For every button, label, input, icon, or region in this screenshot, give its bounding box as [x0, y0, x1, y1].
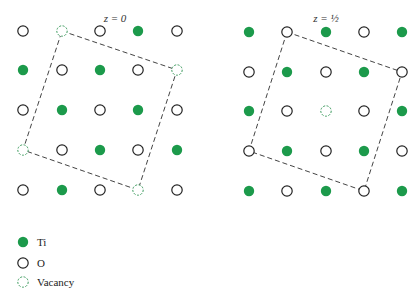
legend-ti-label: Ti [37, 236, 46, 248]
legend: Ti O Vacancy [18, 236, 75, 288]
ti-atom-icon [359, 67, 369, 77]
ti-atom-icon [282, 146, 292, 156]
ti-atom-icon [359, 146, 369, 156]
vacancy-icon [172, 65, 182, 75]
ti-atom-icon [397, 106, 407, 116]
o-atom-icon [397, 146, 407, 156]
legend-o-icon [18, 258, 28, 268]
o-atom-icon [18, 185, 28, 195]
vacancy-icon [321, 106, 331, 116]
ti-atom-icon [321, 186, 331, 196]
panel-z0-title: z = 0 [103, 12, 127, 24]
o-atom-icon [172, 105, 182, 115]
legend-ti-icon [18, 237, 28, 247]
o-atom-icon [172, 26, 182, 36]
crystal-lattice-diagram: z = 0 z = ½ Ti O Vacancy [0, 0, 420, 300]
o-atom-icon [172, 185, 182, 195]
o-atom-icon [133, 145, 143, 155]
o-atom-icon [95, 105, 105, 115]
o-atom-icon [133, 65, 143, 75]
ti-atom-icon [321, 27, 331, 37]
ti-atom-icon [133, 26, 143, 36]
ti-atom-icon [95, 145, 105, 155]
o-atom-icon [57, 65, 67, 75]
ti-atom-icon [133, 105, 143, 115]
o-atom-icon [282, 27, 292, 37]
legend-vacancy-label: Vacancy [37, 276, 75, 288]
o-atom-icon [282, 106, 292, 116]
o-atom-icon [95, 185, 105, 195]
ti-atom-icon [282, 67, 292, 77]
vacancy-icon [57, 26, 67, 36]
ti-atom-icon [397, 186, 407, 196]
ti-atom-icon [244, 106, 254, 116]
o-atom-icon [244, 146, 254, 156]
legend-o-label: O [37, 257, 45, 269]
o-atom-icon [359, 186, 369, 196]
legend-v-icon [18, 277, 28, 287]
o-atom-icon [397, 67, 407, 77]
o-atom-icon [321, 146, 331, 156]
ti-atom-icon [172, 145, 182, 155]
panel-z-half: z = ½ [244, 12, 407, 196]
o-atom-icon [57, 145, 67, 155]
panel-z0: z = 0 [18, 12, 182, 195]
ti-atom-icon [57, 185, 67, 195]
panel-z-half-title: z = ½ [312, 12, 338, 24]
o-atom-icon [321, 67, 331, 77]
o-atom-icon [282, 186, 292, 196]
ti-atom-icon [57, 105, 67, 115]
vacancy-icon [133, 185, 143, 195]
vacancy-icon [18, 145, 28, 155]
ti-atom-icon [18, 65, 28, 75]
o-atom-icon [18, 26, 28, 36]
o-atom-icon [359, 106, 369, 116]
ti-atom-icon [244, 186, 254, 196]
o-atom-icon [95, 26, 105, 36]
ti-atom-icon [244, 27, 254, 37]
ti-atom-icon [397, 27, 407, 37]
o-atom-icon [18, 105, 28, 115]
o-atom-icon [359, 27, 369, 37]
o-atom-icon [244, 67, 254, 77]
ti-atom-icon [95, 65, 105, 75]
